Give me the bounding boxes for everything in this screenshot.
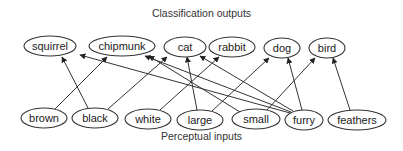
node-label: bird <box>318 42 336 54</box>
output-node-dog: dog <box>264 38 300 58</box>
edge-furry-to-cat <box>200 56 293 111</box>
edge-furry-to-squirrel <box>80 55 290 113</box>
output-node-rabbit: rabbit <box>209 37 255 57</box>
input-node-feathers: feathers <box>328 110 386 130</box>
edge-black-to-squirrel <box>62 57 88 108</box>
input-node-black: black <box>72 108 118 128</box>
node-label: brown <box>29 112 59 124</box>
output-node-squirrel: squirrel <box>24 36 76 56</box>
edge-small-to-chipmunk <box>149 56 240 112</box>
node-label: chipmunk <box>98 40 146 52</box>
input-node-furry: furry <box>285 110 323 130</box>
input-node-white: white <box>125 109 171 129</box>
node-label: rabbit <box>218 41 246 53</box>
node-label: cat <box>178 41 193 53</box>
input-nodes-layer: brownblackwhitelargesmallfurryfeathers <box>21 108 386 130</box>
node-label: feathers <box>337 114 377 126</box>
node-label: white <box>134 113 161 125</box>
node-label: large <box>188 114 212 126</box>
input-node-small: small <box>232 109 280 129</box>
output-node-bird: bird <box>309 38 345 58</box>
output-node-cat: cat <box>164 37 206 57</box>
edge-brown-to-chipmunk <box>55 57 107 109</box>
input-node-brown: brown <box>21 108 67 128</box>
node-label: squirrel <box>32 40 68 52</box>
output-node-chipmunk: chipmunk <box>89 36 155 56</box>
node-label: small <box>243 113 269 125</box>
edge-feathers-to-bird <box>333 58 350 110</box>
node-label: dog <box>273 42 291 54</box>
node-label: furry <box>293 114 316 126</box>
node-label: black <box>82 112 108 124</box>
output-nodes-layer: squirrelchipmunkcatrabbitdogbird <box>24 36 345 58</box>
network-diagram: squirrelchipmunkcatrabbitdogbird brownbl… <box>0 0 403 151</box>
input-node-large: large <box>177 110 223 130</box>
edge-large-to-cat <box>187 57 197 110</box>
edge-furry-to-dog <box>288 58 302 110</box>
edges-layer <box>55 55 350 113</box>
